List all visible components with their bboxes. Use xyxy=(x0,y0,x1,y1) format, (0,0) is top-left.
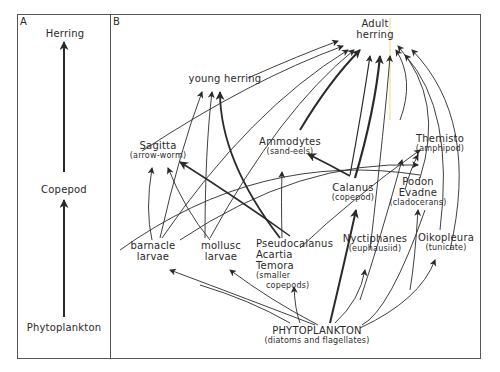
panel-b-letter: B xyxy=(113,16,120,27)
node-ammodytes: Ammodytes (sand-eels) xyxy=(252,136,328,157)
node-young-herring: young herring xyxy=(185,73,265,84)
node-nyctiphanes: Nyctiphanes (euphausiid) xyxy=(340,233,410,254)
node-phytoplankton-a: Phytoplankton xyxy=(22,322,106,333)
node-barnacle-larvae: barnacle larvae xyxy=(125,240,181,262)
panel-a-letter: A xyxy=(20,16,27,27)
node-herring: Herring xyxy=(40,28,90,39)
node-smaller-copepods: Pseudocalanus Acartia Temora (smaller co… xyxy=(256,238,336,291)
node-copepod: Copepod xyxy=(38,184,90,195)
node-cladocerans: Podon Evadne (cladocerans) xyxy=(378,176,458,208)
node-themisto: Themisto (amphipod) xyxy=(410,133,470,154)
node-oikopleura: Oikopleura (tunicate) xyxy=(415,232,477,253)
node-phytoplankton-b: PHYTOPLANKTON (diatoms and flagellates) xyxy=(252,325,382,346)
node-sagitta: Sagitta (arrow-worm) xyxy=(118,140,198,161)
node-adult-herring: Adult herring xyxy=(350,18,400,40)
arrow-phyto-to-nyctiphanes xyxy=(335,270,365,323)
node-calanus: Calanus (copepod) xyxy=(325,182,381,203)
node-mollusc-larvae: mollusc larvae xyxy=(193,240,249,262)
